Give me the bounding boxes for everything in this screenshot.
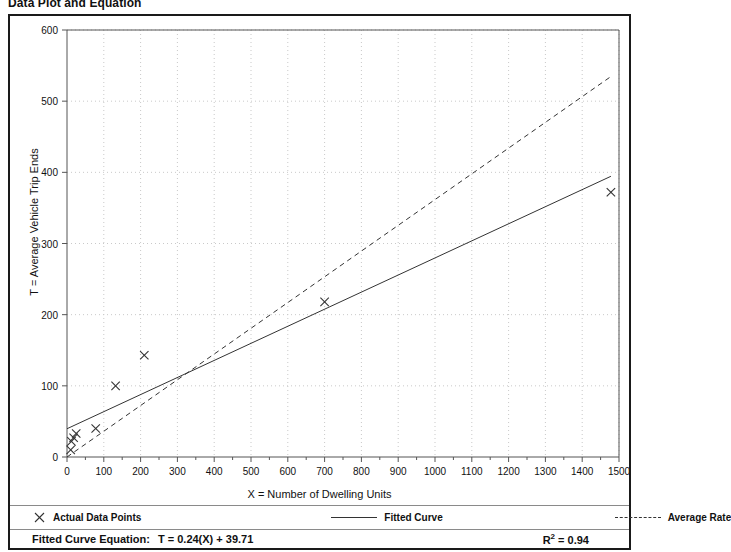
svg-text:1200: 1200 bbox=[497, 466, 520, 477]
grid-lines bbox=[67, 30, 619, 457]
chart-legend: Actual Data Points Fitted Curve Average … bbox=[10, 505, 629, 529]
svg-text:400: 400 bbox=[41, 167, 58, 178]
data-point bbox=[607, 188, 615, 196]
svg-text:1400: 1400 bbox=[571, 466, 594, 477]
series-fitted-curve-line bbox=[67, 176, 611, 428]
data-point bbox=[72, 429, 80, 437]
data-point bbox=[66, 446, 74, 454]
figure-frame: 0100200300400500600700800900100011001200… bbox=[8, 14, 631, 550]
legend-item-average-rate: Average Rate bbox=[615, 511, 731, 523]
x-axis-title: X = Number of Dwelling Units bbox=[10, 488, 629, 500]
series-average-rate-line bbox=[67, 77, 611, 457]
series-actual-data-points bbox=[66, 188, 615, 454]
legend-item-actual-data-points: Actual Data Points bbox=[32, 511, 141, 523]
svg-text:500: 500 bbox=[41, 96, 58, 107]
svg-text:100: 100 bbox=[95, 466, 112, 477]
data-point bbox=[69, 434, 77, 442]
svg-text:300: 300 bbox=[41, 239, 58, 250]
r-squared-number: = 0.94 bbox=[555, 533, 589, 545]
r-squared-prefix: R bbox=[543, 533, 551, 545]
legend-label-average-rate: Average Rate bbox=[668, 512, 731, 523]
chart-canvas: 0100200300400500600700800900100011001200… bbox=[10, 16, 629, 482]
svg-text:500: 500 bbox=[243, 466, 260, 477]
plot-region: 0100200300400500600700800900100011001200… bbox=[10, 16, 629, 482]
svg-text:100: 100 bbox=[41, 381, 58, 392]
equation-label: Fitted Curve Equation: bbox=[32, 533, 150, 545]
svg-text:600: 600 bbox=[279, 466, 296, 477]
equation-value: T = 0.24(X) + 39.71 bbox=[158, 533, 253, 545]
x-marker-icon bbox=[32, 511, 46, 523]
svg-text:900: 900 bbox=[390, 466, 407, 477]
x-tick-labels: 0100200300400500600700800900100011001200… bbox=[64, 466, 629, 477]
data-point bbox=[92, 424, 100, 432]
equation-footer: Fitted Curve Equation: T = 0.24(X) + 39.… bbox=[10, 529, 629, 548]
svg-text:1300: 1300 bbox=[534, 466, 557, 477]
page-title: Data Plot and Equation bbox=[8, 0, 142, 10]
svg-text:0: 0 bbox=[52, 452, 58, 463]
svg-text:1100: 1100 bbox=[461, 466, 483, 477]
dashed-line-icon bbox=[615, 511, 661, 523]
y-axis-title: T = Average Vehicle Trip Ends bbox=[28, 122, 40, 322]
svg-text:0: 0 bbox=[64, 466, 70, 477]
svg-text:600: 600 bbox=[41, 25, 58, 36]
svg-text:700: 700 bbox=[316, 466, 333, 477]
legend-label-actual-data-points: Actual Data Points bbox=[53, 512, 141, 523]
r-squared-value: R2 = 0.94 bbox=[543, 532, 589, 546]
svg-text:200: 200 bbox=[132, 466, 149, 477]
svg-text:800: 800 bbox=[353, 466, 370, 477]
legend-label-fitted-curve: Fitted Curve bbox=[384, 512, 442, 523]
svg-text:200: 200 bbox=[41, 310, 58, 321]
tick-marks bbox=[62, 30, 619, 462]
data-point bbox=[140, 351, 148, 359]
y-tick-labels: 0100200300400500600 bbox=[41, 25, 58, 463]
data-point bbox=[111, 382, 119, 390]
svg-text:1000: 1000 bbox=[424, 466, 447, 477]
svg-text:1500: 1500 bbox=[608, 466, 629, 477]
svg-text:400: 400 bbox=[206, 466, 223, 477]
solid-line-icon bbox=[331, 511, 377, 523]
svg-text:300: 300 bbox=[169, 466, 186, 477]
legend-item-fitted-curve: Fitted Curve bbox=[331, 511, 442, 523]
